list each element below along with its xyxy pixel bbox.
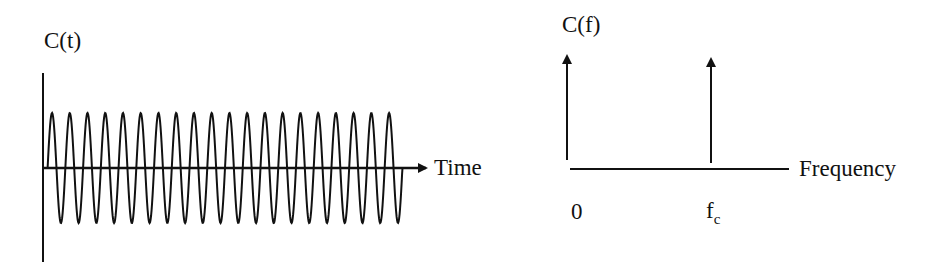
c-t-label: C(t)	[44, 29, 81, 52]
tick-fc-label: fc	[706, 199, 720, 222]
tick-fc-subscript: c	[714, 211, 721, 227]
tick-zero-label: 0	[571, 200, 583, 223]
frequency-domain-plot	[567, 56, 789, 169]
diagram-canvas	[0, 0, 927, 264]
frequency-label: Frequency	[799, 157, 896, 180]
time-domain-plot	[42, 73, 426, 262]
tick-fc-main: f	[706, 198, 714, 223]
c-f-label: C(f)	[562, 13, 600, 36]
time-label: Time	[434, 156, 482, 179]
